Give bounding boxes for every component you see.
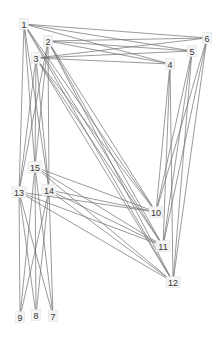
node-label: 5 xyxy=(189,47,194,57)
edge-3-11 xyxy=(36,58,163,246)
node-14[interactable]: 14 xyxy=(42,185,56,196)
node-label: 4 xyxy=(167,60,172,70)
node-8[interactable]: 8 xyxy=(32,310,41,321)
edge-1-10 xyxy=(24,24,156,212)
edge-4-10 xyxy=(156,64,170,212)
node-12[interactable]: 12 xyxy=(166,277,180,288)
node-2[interactable]: 2 xyxy=(44,36,53,47)
node-label: 9 xyxy=(17,313,22,323)
node-label: 14 xyxy=(44,186,54,196)
node-label: 15 xyxy=(30,163,40,173)
node-4[interactable]: 4 xyxy=(166,59,175,70)
node-label: 1 xyxy=(21,20,26,30)
node-11[interactable]: 11 xyxy=(156,241,170,252)
node-1[interactable]: 1 xyxy=(20,19,29,30)
edge-13-9 xyxy=(19,192,20,317)
node-3[interactable]: 3 xyxy=(32,53,41,64)
edge-1-12 xyxy=(24,24,173,282)
edge-14-12 xyxy=(49,190,173,282)
node-5[interactable]: 5 xyxy=(188,46,197,57)
node-15[interactable]: 15 xyxy=(28,162,42,173)
edge-layer xyxy=(19,24,207,317)
edge-3-5 xyxy=(36,51,192,58)
edge-15-8 xyxy=(35,167,36,315)
node-7[interactable]: 7 xyxy=(49,311,58,322)
edge-2-10 xyxy=(48,41,156,212)
edge-2-11 xyxy=(48,41,163,246)
node-label: 3 xyxy=(33,54,38,64)
edge-13-8 xyxy=(19,192,36,315)
edge-14-11 xyxy=(49,190,163,246)
node-label: 2 xyxy=(45,37,50,47)
edge-1-13 xyxy=(19,24,24,192)
edge-4-12 xyxy=(170,64,173,282)
edge-3-15 xyxy=(35,58,36,167)
node-13[interactable]: 13 xyxy=(12,187,26,198)
node-label: 10 xyxy=(151,208,161,218)
edge-13-11 xyxy=(19,192,163,246)
node-label: 11 xyxy=(158,242,167,252)
network-graph: 123456789101112131415 xyxy=(0,0,218,340)
node-label: 12 xyxy=(168,278,178,288)
node-10[interactable]: 10 xyxy=(149,207,163,218)
node-label: 6 xyxy=(204,34,209,44)
node-label: 7 xyxy=(50,312,55,322)
edge-1-15 xyxy=(24,24,35,167)
edge-14-8 xyxy=(36,190,49,315)
edge-5-11 xyxy=(163,51,192,246)
edge-6-10 xyxy=(156,38,207,212)
node-label: 13 xyxy=(14,188,24,198)
edge-14-9 xyxy=(20,190,49,317)
edge-5-10 xyxy=(156,51,192,212)
node-6[interactable]: 6 xyxy=(203,33,212,44)
edge-15-11 xyxy=(35,167,163,246)
edge-3-12 xyxy=(36,58,173,282)
node-9[interactable]: 9 xyxy=(16,312,25,323)
edge-3-4 xyxy=(36,58,170,64)
node-label: 8 xyxy=(33,311,38,321)
